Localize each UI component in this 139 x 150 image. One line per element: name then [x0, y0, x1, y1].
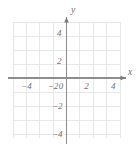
x-tick-label: −4	[21, 81, 32, 91]
y-tick-label: −2	[52, 101, 63, 111]
x-axis-arrowhead	[121, 76, 127, 81]
y-tick-label: 2	[57, 56, 62, 66]
x-tick-labels: −4 −2 0 2 4	[21, 81, 116, 91]
coordinate-plane-svg: −4 −2 0 2 4 4 2 −2 −4 y x	[0, 0, 139, 150]
y-axis-label: y	[70, 5, 76, 15]
y-tick-label: −4	[52, 129, 63, 139]
coordinate-plane-figure: −4 −2 0 2 4 4 2 −2 −4 y x	[0, 0, 139, 150]
x-tick-label: 2	[84, 81, 89, 91]
x-tick-label: 4	[111, 81, 116, 91]
x-tick-label: −2	[48, 81, 59, 91]
y-axis-arrowhead	[64, 17, 69, 23]
x-axis-label: x	[127, 67, 133, 77]
y-tick-label: 4	[57, 28, 62, 38]
x-tick-label-origin: 0	[59, 81, 64, 91]
